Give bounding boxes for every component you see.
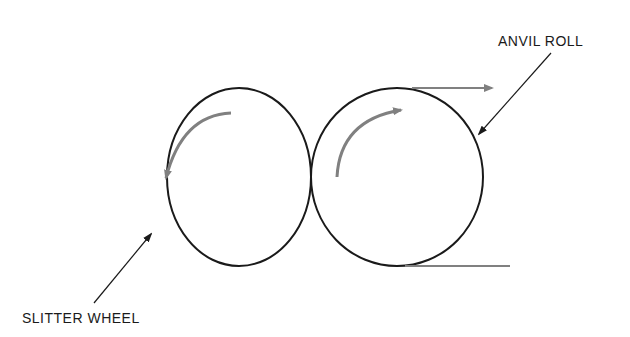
slitter-wheel-leader-arrow <box>94 234 151 303</box>
slitter-rotation-arrow-icon <box>166 113 231 178</box>
slitting-diagram <box>0 0 630 337</box>
slitter-wheel-label: SLITTER WHEEL <box>22 310 140 326</box>
anvil-roll-leader-arrow <box>479 53 551 134</box>
anvil-roll-circle <box>311 88 483 266</box>
anvil-rotation-arrow-icon <box>337 110 401 177</box>
anvil-roll-label: ANVIL ROLL <box>498 33 583 49</box>
slitter-wheel-circle <box>167 88 311 266</box>
